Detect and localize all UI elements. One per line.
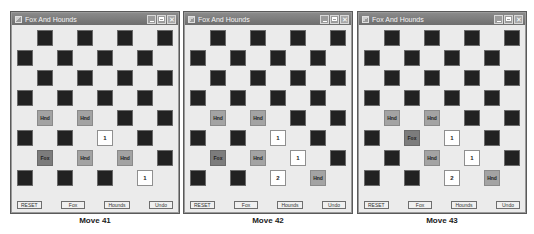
board-cell[interactable] <box>328 28 348 48</box>
board-cell[interactable]: Hnd <box>248 148 268 168</box>
board-cell[interactable] <box>35 48 55 68</box>
board-cell[interactable] <box>35 168 55 188</box>
hound-piece[interactable]: Hnd <box>77 150 93 166</box>
board-cell[interactable] <box>15 148 35 168</box>
reset-button[interactable]: RESET <box>17 201 42 209</box>
board-cell[interactable]: Hnd <box>422 148 442 168</box>
dark-square[interactable] <box>504 70 520 86</box>
board-cell[interactable] <box>422 68 442 88</box>
board-cell[interactable] <box>502 128 522 148</box>
board-cell[interactable] <box>135 48 155 68</box>
board-cell[interactable] <box>328 168 348 188</box>
board-cell[interactable] <box>248 48 268 68</box>
dark-square[interactable] <box>464 70 480 86</box>
board-cell[interactable]: Hnd <box>308 168 328 188</box>
board-cell[interactable] <box>308 48 328 68</box>
board-cell[interactable] <box>288 88 308 108</box>
dark-square[interactable] <box>137 90 153 106</box>
board-cell[interactable] <box>482 68 502 88</box>
dark-square[interactable] <box>484 50 500 66</box>
board-cell[interactable] <box>188 68 208 88</box>
title-bar[interactable]: Fox And Hounds ✕ <box>359 13 525 25</box>
dark-square[interactable] <box>250 70 266 86</box>
dark-square[interactable] <box>230 50 246 66</box>
board-cell[interactable] <box>115 128 135 148</box>
move-marker[interactable]: 1 <box>444 130 460 146</box>
board-cell[interactable] <box>462 68 482 88</box>
board-cell[interactable] <box>15 28 35 48</box>
board-cell[interactable] <box>268 68 288 88</box>
board-cell[interactable] <box>35 28 55 48</box>
move-marker[interactable]: 1 <box>97 130 113 146</box>
board-cell[interactable] <box>228 168 248 188</box>
board-cell[interactable]: Fox <box>208 148 228 168</box>
board-cell[interactable] <box>155 68 175 88</box>
board-cell[interactable] <box>95 68 115 88</box>
board-cell[interactable] <box>442 28 462 48</box>
board-cell[interactable] <box>228 108 248 128</box>
board-cell[interactable] <box>95 28 115 48</box>
board-cell[interactable] <box>135 28 155 48</box>
board-cell[interactable] <box>268 28 288 48</box>
dark-square[interactable] <box>190 90 206 106</box>
board-cell[interactable] <box>362 148 382 168</box>
board-cell[interactable] <box>135 68 155 88</box>
dark-square[interactable] <box>270 50 286 66</box>
board-cell[interactable] <box>155 28 175 48</box>
dark-square[interactable] <box>464 110 480 126</box>
board-cell[interactable] <box>462 28 482 48</box>
close-button[interactable]: ✕ <box>167 15 176 24</box>
fox-piece[interactable]: Fox <box>210 150 226 166</box>
board-cell[interactable] <box>15 88 35 108</box>
board-cell[interactable] <box>382 88 402 108</box>
board-cell[interactable]: Hnd <box>382 108 402 128</box>
board-cell[interactable] <box>362 88 382 108</box>
dark-square[interactable] <box>364 90 380 106</box>
dark-square[interactable] <box>484 90 500 106</box>
board-cell[interactable] <box>328 68 348 88</box>
board-cell[interactable] <box>188 28 208 48</box>
board-cell[interactable] <box>308 108 328 128</box>
board-cell[interactable] <box>482 148 502 168</box>
board-cell[interactable] <box>188 148 208 168</box>
hound-piece[interactable]: Hnd <box>250 150 266 166</box>
close-button[interactable]: ✕ <box>340 15 349 24</box>
board-cell[interactable] <box>288 128 308 148</box>
board-cell[interactable] <box>228 88 248 108</box>
board-cell[interactable] <box>502 68 522 88</box>
board-cell[interactable] <box>248 168 268 188</box>
board-cell[interactable] <box>208 28 228 48</box>
board-cell[interactable] <box>382 28 402 48</box>
dark-square[interactable] <box>190 50 206 66</box>
board-cell[interactable] <box>115 108 135 128</box>
dark-square[interactable] <box>157 30 173 46</box>
board-cell[interactable] <box>268 88 288 108</box>
dark-square[interactable] <box>37 30 53 46</box>
dark-square[interactable] <box>97 90 113 106</box>
board-cell[interactable] <box>288 28 308 48</box>
board-cell[interactable] <box>115 168 135 188</box>
dark-square[interactable] <box>330 30 346 46</box>
dark-square[interactable] <box>484 130 500 146</box>
board-cell[interactable] <box>75 48 95 68</box>
move-marker[interactable]: 2 <box>444 170 460 186</box>
board-cell[interactable] <box>502 48 522 68</box>
maximize-button[interactable] <box>504 15 513 24</box>
dark-square[interactable] <box>330 70 346 86</box>
board-cell[interactable] <box>442 48 462 68</box>
board-cell[interactable] <box>35 88 55 108</box>
board-cell[interactable] <box>268 108 288 128</box>
board-cell[interactable] <box>502 108 522 128</box>
reset-button[interactable]: RESET <box>190 201 215 209</box>
dark-square[interactable] <box>230 170 246 186</box>
hound-piece[interactable]: Hnd <box>37 110 53 126</box>
board-cell[interactable] <box>268 48 288 68</box>
board-cell[interactable] <box>482 108 502 128</box>
board-cell[interactable] <box>155 148 175 168</box>
dark-square[interactable] <box>384 30 400 46</box>
board-cell[interactable] <box>462 88 482 108</box>
board-cell[interactable] <box>502 168 522 188</box>
board-cell[interactable] <box>288 68 308 88</box>
board-cell[interactable] <box>402 148 422 168</box>
board-cell[interactable] <box>55 88 75 108</box>
